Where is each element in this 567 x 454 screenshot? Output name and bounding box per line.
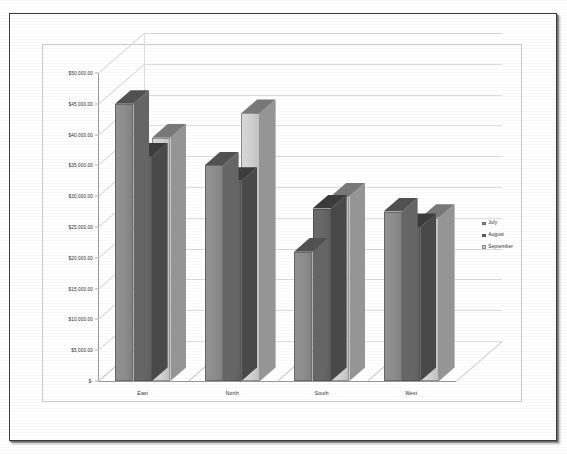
gridline-back: [144, 95, 502, 96]
bar-side-face: [170, 124, 186, 381]
bar-side-face: [133, 90, 149, 381]
y-axis-tick-mark: [95, 288, 98, 289]
gridline-back: [144, 64, 502, 65]
scanned-page: $-$5,000.00$10,000.00$15,000.00$20,000.0…: [9, 13, 557, 441]
y-axis-tick-label: $25,000.00: [69, 225, 94, 230]
bar-front-face: [205, 165, 223, 381]
value-axis: [98, 73, 99, 381]
category-label-north: North: [226, 390, 239, 396]
y-axis-tick-label: $15,000.00: [69, 286, 94, 291]
y-axis-tick-mark: [95, 196, 98, 197]
chart-object[interactable]: $-$5,000.00$10,000.00$15,000.00$20,000.0…: [42, 44, 522, 402]
legend-item-august[interactable]: August: [482, 233, 513, 238]
plot-area: $-$5,000.00$10,000.00$15,000.00$20,000.0…: [98, 73, 456, 381]
y-axis-tick-label: $20,000.00: [69, 255, 94, 260]
y-axis-tick-label: $10,000.00: [69, 317, 94, 322]
bar-side-face: [312, 238, 328, 381]
bar-side-face: [223, 152, 239, 381]
category-label-south: South: [315, 390, 329, 396]
y-axis-tick-mark: [95, 227, 98, 228]
bar-side-face: [420, 213, 436, 381]
bar-side-face: [260, 99, 276, 381]
bar-front-face: [384, 212, 402, 381]
legend-item-july[interactable]: July: [482, 221, 513, 226]
y-axis-tick-mark: [95, 73, 98, 74]
bar-side-face: [349, 183, 365, 381]
bar-side-face: [402, 198, 418, 381]
floor-right-edge: [456, 341, 503, 382]
legend-swatch-icon: [482, 245, 485, 248]
y-axis-tick-mark: [95, 350, 98, 351]
bar-side-face: [331, 195, 347, 381]
y-axis-tick-mark: [95, 381, 98, 382]
gridline-back: [144, 156, 502, 157]
y-axis-tick-label: $35,000.00: [69, 163, 94, 168]
gridline-back: [144, 125, 502, 126]
y-axis-tick-label: $5,000.00: [71, 348, 93, 353]
bar-side-face: [241, 167, 257, 381]
y-axis-tick-mark: [95, 103, 98, 104]
bar-front-face: [115, 104, 133, 381]
bar-july-east[interactable]: [115, 104, 133, 381]
legend-swatch-icon: [482, 222, 485, 225]
legend-label: August: [488, 233, 504, 238]
gridline-back: [144, 33, 502, 34]
legend-swatch-icon: [482, 234, 485, 237]
legend-label: September: [488, 245, 513, 250]
bar-side-face: [152, 143, 168, 381]
bar-july-south[interactable]: [294, 252, 312, 381]
gridline: [98, 33, 145, 74]
y-axis-tick-label: $30,000.00: [69, 194, 94, 199]
legend-item-september[interactable]: September: [482, 245, 513, 250]
bar-side-face: [439, 204, 455, 381]
category-label-east: East: [137, 390, 148, 396]
y-axis-tick-label: $40,000.00: [69, 132, 94, 137]
gridline-back: [144, 187, 502, 188]
y-axis-tick-label: $45,000.00: [69, 101, 94, 106]
y-axis-tick-mark: [95, 319, 98, 320]
y-axis-tick-label: $50,000.00: [69, 71, 94, 76]
bar-july-west[interactable]: [384, 212, 402, 381]
y-axis-tick-mark: [95, 165, 98, 166]
category-label-west: West: [405, 390, 417, 396]
y-axis-tick-mark: [95, 257, 98, 258]
bar-front-face: [294, 252, 312, 381]
chart-legend: JulyAugustSeptember: [482, 221, 513, 256]
y-axis-tick-label: $-: [89, 379, 93, 384]
bar-july-north[interactable]: [205, 165, 223, 381]
legend-label: July: [488, 221, 497, 226]
y-axis-tick-mark: [95, 134, 98, 135]
